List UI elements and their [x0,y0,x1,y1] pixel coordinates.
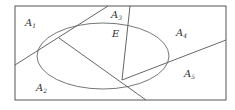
event-e-ellipse [37,23,169,89]
label-a3: A3 [110,9,122,21]
label-a4: A4 [175,27,187,39]
partition-line-4 [122,40,226,80]
partition-line-1 [15,6,108,65]
partition-line-3 [122,6,130,80]
label-a2: A2 [35,82,47,94]
partition-line-2 [59,38,146,100]
label-a1: A1 [24,17,36,29]
partition-diagram: A1 A2 A3 A4 A5 E [0,0,235,110]
label-a5: A5 [183,68,195,80]
label-e: E [111,28,120,39]
